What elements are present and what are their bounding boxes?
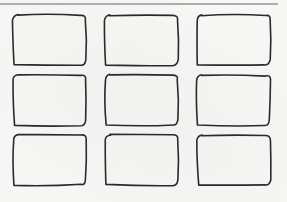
sketch-box-r3-c2 (105, 134, 178, 185)
sketch-box-r3-c3 (197, 135, 271, 185)
sketch-box-r1-c3 (197, 15, 271, 66)
wireframe-grid-sketch (0, 0, 287, 202)
sketch-box-r2-c2 (105, 74, 179, 126)
sketch-box-r3-c1 (13, 135, 86, 186)
sketch-box-r2-c1 (13, 75, 86, 126)
sketch-paper (0, 0, 287, 202)
sketch-box-r1-c1 (12, 14, 86, 65)
sketch-box-r2-c3 (196, 75, 270, 126)
box-grid (12, 14, 270, 185)
sketch-box-r1-c2 (104, 15, 178, 66)
